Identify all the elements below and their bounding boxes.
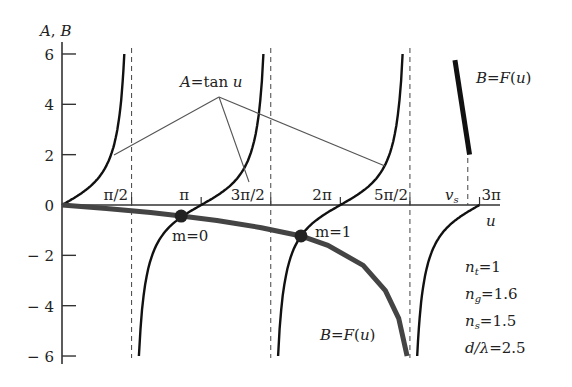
- y-tick-label: − 2: [27, 247, 54, 265]
- leader-lines: [114, 97, 385, 182]
- x-tick-label: 3π: [482, 186, 502, 204]
- tan-branch: [417, 205, 479, 356]
- intersection-dot: [175, 210, 188, 223]
- y-tick-label: 2: [44, 147, 54, 165]
- parameters: nt=1ng=1.6ns=1.5d/λ=2.5: [465, 258, 526, 357]
- b-curve: [62, 60, 470, 356]
- x-tick-label: 5π/2: [374, 186, 408, 204]
- m0-label: m=0: [172, 227, 208, 245]
- tan-label: A=tan u: [178, 73, 243, 91]
- x-axis-label: u: [486, 212, 496, 230]
- tan-branch: [62, 54, 124, 205]
- b-curve-upper: [455, 60, 470, 155]
- vs-label: vs: [445, 186, 459, 205]
- y-tick-label: 0: [44, 197, 54, 215]
- intersection-dot: [294, 229, 307, 242]
- parameter-label: d/λ=2.5: [465, 339, 526, 357]
- x-tick-label: π/2: [104, 186, 128, 204]
- y-tick-label: − 6: [27, 348, 54, 366]
- x-ticks: π/2π3π/22π5π/23π: [104, 186, 501, 205]
- x-tick-label: π: [179, 186, 189, 204]
- y-tick-label: 4: [44, 96, 54, 114]
- parameter-label: ns=1.5: [465, 312, 516, 331]
- x-tick-label: 2π: [312, 186, 332, 204]
- y-tick-label: 6: [44, 46, 54, 64]
- chart: 6420− 2− 4− 6 π/2π3π/22π5π/23π A, B u A=…: [0, 0, 572, 387]
- b-label-top: B=F(u): [475, 69, 531, 87]
- parameter-label: ng=1.6: [465, 285, 518, 304]
- parameter-label: nt=1: [465, 258, 501, 277]
- b-label-bottom: B=F(u): [319, 326, 375, 344]
- x-tick-label: 3π/2: [231, 186, 265, 204]
- y-tick-label: − 4: [27, 298, 54, 316]
- y-axis-label: A, B: [38, 22, 71, 40]
- m1-label: m=1: [315, 223, 351, 241]
